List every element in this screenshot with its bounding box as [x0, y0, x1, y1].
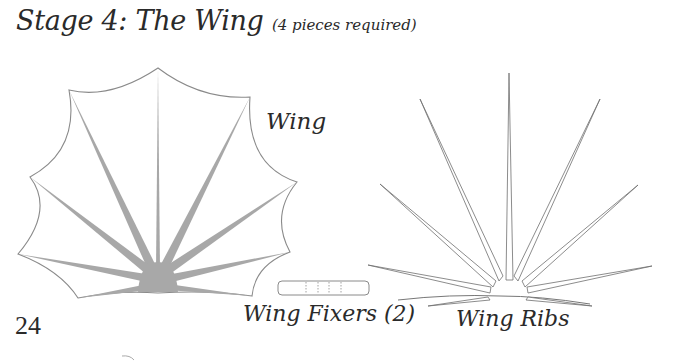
wing-label: Wing — [266, 108, 326, 134]
wing-ribs-piece — [368, 73, 652, 306]
wing-fixer-strip — [278, 281, 369, 295]
wing-ribs-label: Wing Ribs — [456, 306, 569, 331]
stray-mark — [122, 356, 134, 360]
page-number: 24 — [15, 311, 41, 341]
wing-ribs-shaded — [18, 68, 297, 298]
wing-fixers-label: Wing Fixers (2) — [243, 301, 415, 326]
wing-piece — [18, 68, 297, 298]
